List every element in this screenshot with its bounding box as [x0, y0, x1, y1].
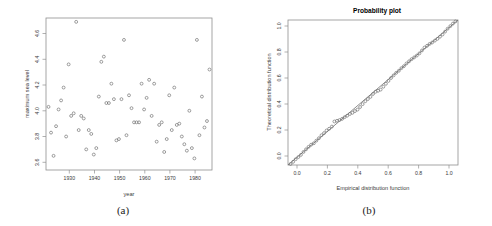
data-point — [95, 147, 98, 150]
data-point — [85, 148, 88, 151]
data-point — [60, 99, 63, 102]
data-point — [155, 140, 158, 143]
panel-b-xtick-label: 0.8 — [415, 170, 422, 176]
subfigure-caption-a: (a) — [0, 204, 246, 216]
panel-b-xtick-label: 1.0 — [445, 170, 452, 176]
panel-a-xtick-label: 1930 — [64, 175, 76, 181]
panel-a-ytick-label: 4.4 — [34, 56, 40, 63]
panel-a-ytick-label: 4.6 — [34, 30, 40, 37]
data-point — [180, 135, 183, 138]
data-point — [123, 38, 126, 41]
data-point — [384, 82, 387, 85]
data-point — [359, 106, 362, 109]
data-point — [50, 131, 53, 134]
panel-b-svg: Probability plot 0.0 — [246, 0, 492, 226]
panel-a-x-ticks — [69, 170, 195, 174]
data-point — [203, 126, 206, 129]
panel-a-xtick-label: 1970 — [164, 175, 176, 181]
data-point — [148, 78, 151, 81]
panel-a-ytick-label: 3.8 — [34, 133, 40, 140]
data-point — [150, 114, 153, 117]
data-point — [198, 134, 201, 137]
panel-b-xtick-label: 0.0 — [293, 170, 300, 176]
data-point — [170, 129, 173, 132]
panel-a-ytick-label: 3.6 — [34, 159, 40, 166]
panel-b-x-ticks — [297, 165, 449, 169]
data-point — [208, 68, 211, 71]
panel-b-ytick-label: 0.6 — [276, 74, 282, 81]
panel-a-xtick-label: 1960 — [139, 175, 151, 181]
data-point — [102, 55, 105, 58]
panel-a-ytick-label: 4.2 — [34, 81, 40, 88]
data-point — [143, 108, 146, 111]
data-point — [183, 143, 186, 146]
data-point — [200, 95, 203, 98]
panel-b-ytick-label: 0.0 — [276, 152, 282, 159]
data-point — [382, 85, 385, 88]
data-point — [130, 107, 133, 110]
data-point — [178, 122, 181, 125]
panel-b-y-ticks — [285, 26, 289, 156]
panel-b-xtick-label: 0.2 — [324, 170, 331, 176]
panel-b-ytick-label: 0.4 — [276, 100, 282, 107]
data-point — [173, 86, 176, 89]
data-point — [361, 103, 364, 106]
subfigure-caption-b: (b) — [246, 204, 492, 216]
data-point — [206, 120, 209, 123]
data-point — [128, 94, 131, 97]
panel-a-data-points — [47, 20, 211, 159]
data-point — [110, 82, 113, 85]
data-point — [77, 129, 80, 132]
data-point — [379, 88, 382, 91]
data-point — [87, 129, 90, 132]
data-point — [193, 157, 196, 160]
data-point — [185, 149, 188, 152]
panel-a-scatter: 1930 1940 1950 1960 1970 1980 3.6 3.8 4.… — [0, 0, 246, 226]
data-point — [163, 151, 166, 154]
data-point — [47, 105, 50, 108]
data-point — [140, 82, 143, 85]
data-point — [82, 117, 85, 120]
data-point — [90, 132, 93, 135]
data-point — [366, 98, 369, 101]
data-point — [57, 108, 60, 111]
data-point — [92, 153, 95, 156]
panel-b-xlabel: Empirical distribution function — [337, 185, 410, 191]
panel-a-xtick-label: 1980 — [189, 175, 201, 181]
panel-b-ytick-label: 0.8 — [276, 48, 282, 55]
data-point — [364, 100, 367, 103]
data-point — [195, 38, 198, 41]
data-point — [117, 138, 120, 141]
panel-b-data-points — [289, 20, 457, 165]
data-point — [97, 95, 100, 98]
panel-a-svg: 1930 1940 1950 1960 1970 1980 3.6 3.8 4.… — [0, 0, 246, 226]
panel-a-ytick-label: 4.0 — [34, 107, 40, 114]
data-point — [120, 98, 123, 101]
data-point — [160, 121, 163, 124]
data-point — [112, 98, 115, 101]
data-point — [72, 112, 75, 115]
data-point — [168, 94, 171, 97]
panel-b-ylabel: Theoretical distribution function — [266, 53, 272, 130]
panel-b-xtick-label: 0.4 — [354, 170, 361, 176]
data-point — [65, 135, 68, 138]
panel-b-xtick-label: 0.6 — [385, 170, 392, 176]
panel-a-y-ticks — [43, 34, 47, 163]
data-point — [369, 95, 372, 98]
data-point — [62, 86, 65, 89]
panel-a-xtick-label: 1950 — [114, 175, 126, 181]
data-point — [158, 123, 161, 126]
data-point — [125, 134, 128, 137]
data-point — [52, 154, 55, 157]
figure-container: 1930 1940 1950 1960 1970 1980 3.6 3.8 4.… — [0, 0, 492, 226]
data-point — [80, 114, 83, 117]
data-point — [356, 108, 359, 111]
data-point — [145, 96, 148, 99]
data-point — [100, 60, 103, 63]
panel-a-xlabel: year — [124, 191, 135, 197]
panel-b-title: Probability plot — [353, 7, 402, 15]
data-point — [190, 147, 193, 150]
data-point — [70, 114, 73, 117]
panel-a-xtick-label: 1940 — [89, 175, 101, 181]
panel-a-ylabel: maximum sea level — [24, 70, 30, 118]
